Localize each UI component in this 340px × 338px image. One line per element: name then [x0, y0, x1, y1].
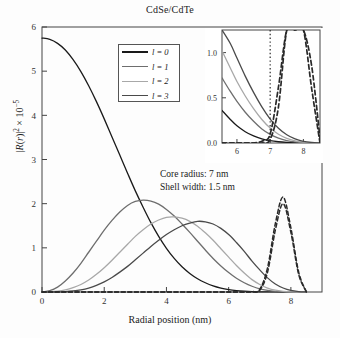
inset-axes: 0.00.51.0678: [205, 24, 323, 163]
legend-label-l1: l = 1: [152, 62, 169, 72]
series-l-1: [42, 200, 306, 292]
x-tick-label: 0: [40, 296, 45, 306]
inset-y-tick-label: 1.0: [207, 49, 217, 58]
parameter-annotation: Core radius: 7 nm Shell width: 1.5 nm: [160, 168, 235, 194]
inset-x-tick-label: 7: [268, 147, 272, 156]
legend-swatch-l1: [122, 66, 148, 67]
inset-x-tick-label: 6: [235, 147, 239, 156]
series-l-2: [42, 217, 306, 292]
legend-swatch-l0: [122, 51, 148, 53]
legend-swatch-l2: [122, 81, 148, 82]
y-tick-label: 6: [32, 22, 37, 32]
x-tick-label: 6: [226, 296, 231, 306]
x-tick-label: 2: [102, 296, 107, 306]
legend: l = 0 l = 1 l = 2 l = 3: [118, 44, 180, 102]
y-tick-label: 4: [32, 111, 37, 121]
chart-figure: CdSe/CdTe |R(r)|2 × 10−5 Radial position…: [0, 0, 340, 338]
y-tick-label: 2: [32, 199, 37, 209]
legend-swatch-l3: [122, 95, 148, 96]
legend-label-l3: l = 3: [152, 91, 169, 101]
legend-item-l1: l = 1: [119, 60, 179, 75]
core-radius-text: Core radius: 7 nm: [160, 168, 235, 181]
y-tick-label: 1: [32, 243, 37, 253]
y-tick-label: 0: [32, 287, 37, 297]
inset-y-tick-label: 0.5: [207, 94, 217, 103]
x-tick-label: 8: [289, 296, 294, 306]
legend-item-l0: l = 0: [119, 45, 179, 60]
inset-y-tick-label: 0.0: [207, 139, 217, 148]
legend-label-l0: l = 0: [152, 47, 169, 57]
legend-item-l3: l = 3: [119, 89, 179, 104]
x-tick-label: 4: [164, 296, 169, 306]
legend-label-l2: l = 2: [152, 76, 169, 86]
y-tick-label: 3: [32, 155, 37, 165]
y-tick-label: 5: [32, 66, 37, 76]
series-l-3: [42, 221, 306, 292]
legend-item-l2: l = 2: [119, 74, 179, 89]
inset-x-tick-label: 8: [301, 147, 305, 156]
shell-width-text: Shell width: 1.5 nm: [160, 181, 235, 194]
